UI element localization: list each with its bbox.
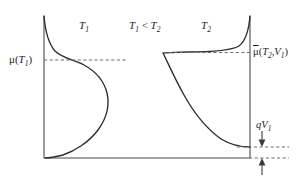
label-t2-sub: 2	[207, 25, 211, 34]
qv1-upper-arrow-head	[259, 140, 266, 148]
distribution-curve-t1	[44, 16, 108, 158]
label-t1-sub: 1	[85, 25, 89, 34]
label-mu-t1: μ(T1)	[9, 54, 32, 68]
label-temperature-t1: T1	[79, 20, 89, 34]
mu-right-close: )	[285, 46, 289, 57]
mu-left-close: )	[28, 53, 32, 65]
qv-sub: 1	[268, 124, 272, 133]
qv1-lower-arrow-head	[259, 158, 266, 166]
mu-left-symbol: μ(	[9, 53, 19, 65]
distribution-curve-t2	[163, 16, 250, 147]
label-temperature-t2: T2	[201, 20, 211, 34]
qv-symbol: qV	[256, 119, 268, 130]
label-mu-bar-t2-v1: μ(T2,V1)	[253, 47, 288, 60]
label-temperature-inequality: T1 < T2	[129, 20, 160, 34]
ineq-right-sub: 2	[157, 25, 161, 34]
label-qv1: qV1	[256, 120, 271, 133]
energy-distribution-figure: T1 T1 < T2 T2 μ(T1) μ(T2,V1) qV1	[0, 0, 297, 179]
ineq-operator: <	[139, 19, 151, 31]
